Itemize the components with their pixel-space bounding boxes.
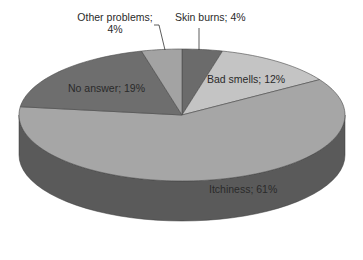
label-no-answer: No answer; 19% [68, 82, 145, 94]
label-other-problems-line2: 4% [75, 23, 155, 35]
label-itchiness: Itchiness; 61% [209, 183, 277, 195]
label-bad-smells: Bad smells; 12% [207, 73, 285, 85]
pie-chart [0, 0, 363, 260]
label-skin-burns: Skin burns; 4% [175, 11, 246, 23]
leader-lines [154, 25, 199, 50]
pie-top-face [19, 49, 345, 181]
leader-line-other-problems [154, 25, 165, 50]
label-other-problems-line1: Other problems; [75, 11, 155, 23]
label-other-problems: Other problems; 4% [75, 11, 155, 35]
